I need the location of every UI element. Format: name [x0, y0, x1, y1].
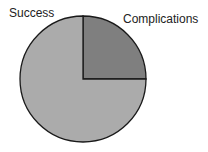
label-success: Success: [9, 6, 54, 20]
label-complications: Complications: [123, 12, 198, 26]
